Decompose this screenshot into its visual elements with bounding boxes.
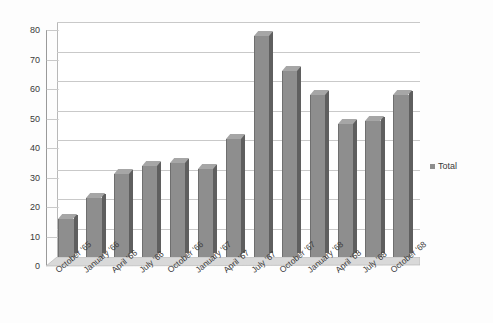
bar-side bbox=[185, 159, 189, 253]
y-axis-tick-label: 60 bbox=[12, 85, 40, 94]
bar-face bbox=[226, 139, 242, 257]
legend-swatch-total bbox=[430, 164, 435, 169]
bar-side bbox=[129, 170, 133, 253]
y-axis: 01020304050607080 bbox=[10, 0, 40, 323]
bar[interactable] bbox=[393, 95, 408, 257]
bar-side bbox=[409, 91, 413, 253]
bar-face bbox=[338, 124, 354, 257]
bar-side bbox=[102, 194, 106, 253]
bar-face bbox=[282, 71, 298, 257]
bar-side bbox=[353, 120, 357, 253]
y-axis-tick-label: 20 bbox=[12, 203, 40, 212]
bar-side bbox=[325, 91, 329, 253]
bar-series-total bbox=[46, 22, 420, 266]
y-axis-tick-label: 80 bbox=[12, 26, 40, 35]
bar[interactable] bbox=[338, 124, 353, 257]
bar-face bbox=[142, 166, 158, 257]
y-axis-tick-label: 40 bbox=[12, 144, 40, 153]
bar-face bbox=[254, 36, 270, 257]
bar-chart: 01020304050607080 October '65January '66… bbox=[0, 0, 493, 323]
bar-side bbox=[213, 165, 217, 254]
bar[interactable] bbox=[254, 36, 269, 257]
plot-area bbox=[46, 22, 420, 265]
bar-side bbox=[297, 67, 301, 253]
bar[interactable] bbox=[310, 95, 325, 257]
bar-top bbox=[310, 90, 330, 95]
bar[interactable] bbox=[142, 166, 157, 257]
bar-face bbox=[365, 121, 381, 257]
bar-side bbox=[241, 135, 245, 253]
legend-label-total: Total bbox=[438, 162, 457, 171]
bar-side bbox=[157, 162, 161, 253]
y-axis-tick-label: 70 bbox=[12, 56, 40, 65]
bar-face bbox=[310, 95, 326, 257]
bar-side bbox=[269, 32, 273, 253]
x-axis-labels: October '65January '66April '66July '66O… bbox=[46, 268, 426, 323]
bar[interactable] bbox=[282, 71, 297, 257]
chart-legend: Total bbox=[430, 162, 457, 171]
bar-face bbox=[393, 95, 409, 257]
y-axis-tick-label: 50 bbox=[12, 115, 40, 124]
bar[interactable] bbox=[170, 163, 185, 257]
y-axis-tick-label: 10 bbox=[12, 233, 40, 242]
bar-side bbox=[381, 117, 385, 253]
bar[interactable] bbox=[365, 121, 380, 257]
y-axis-tick-label: 0 bbox=[12, 262, 40, 271]
y-axis-tick-label: 30 bbox=[12, 174, 40, 183]
bar-face bbox=[170, 163, 186, 257]
